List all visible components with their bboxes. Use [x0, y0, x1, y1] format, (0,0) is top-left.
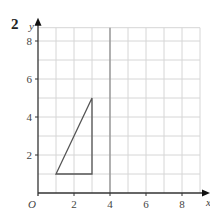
origin-label: O	[28, 198, 36, 210]
y-tick-label: 8	[27, 35, 33, 47]
x-axis-label: x	[205, 196, 210, 208]
y-tick-label: 4	[27, 111, 33, 123]
y-axis-label: y	[28, 20, 34, 32]
coordinate-grid-chart: 24682468xyO	[0, 0, 210, 219]
x-tick-label: 6	[143, 198, 149, 210]
x-tick-label: 2	[71, 198, 77, 210]
x-tick-label: 8	[179, 198, 185, 210]
y-tick-label: 6	[27, 73, 33, 85]
y-axis-arrow-icon	[35, 18, 42, 26]
y-tick-label: 2	[27, 149, 33, 161]
x-tick-label: 4	[107, 198, 113, 210]
